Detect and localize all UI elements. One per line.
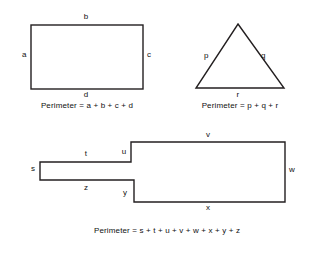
polygon-side-label-z: z [84, 184, 88, 192]
triangle-perimeter-formula: Perimeter = p + q + r [202, 102, 279, 110]
rectangle-side-label-d: d [84, 91, 89, 99]
triangle-outline [196, 24, 284, 88]
polygon-side-label-w: w [289, 166, 295, 174]
step-polygon-outline [40, 142, 285, 202]
polygon-side-label-u: u [122, 148, 127, 156]
rectangle-side-label-c: c [147, 51, 151, 59]
diagram-canvas [0, 0, 318, 257]
polygon-side-label-s: s [31, 165, 35, 173]
triangle-side-label-q: q [261, 52, 266, 60]
polygon-side-label-t: t [85, 150, 87, 158]
rectangle-side-label-b: b [84, 13, 89, 21]
polygon-perimeter-formula: Perimeter = s + t + u + v + w + x + y + … [94, 227, 240, 235]
rectangle-perimeter-formula: Perimeter = a + b + c + d [41, 102, 133, 110]
triangle-side-label-p: p [204, 52, 209, 60]
polygon-side-label-y: y [123, 189, 127, 197]
perimeter-diagram-svg [0, 0, 318, 257]
rectangle-side-label-a: a [22, 51, 27, 59]
rectangle-outline [31, 25, 143, 89]
polygon-side-label-x: x [206, 204, 210, 212]
polygon-side-label-v: v [206, 131, 210, 139]
triangle-side-label-r: r [237, 91, 240, 99]
